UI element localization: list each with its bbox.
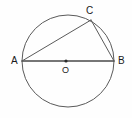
point-label-a: A xyxy=(11,56,18,66)
point-label-c: C xyxy=(86,6,93,16)
center-point-dot xyxy=(64,59,67,62)
point-label-b: B xyxy=(118,56,125,66)
circle-diagram-canvas xyxy=(0,0,132,118)
point-label-o: O xyxy=(62,66,69,75)
geometry-figure: A B C O xyxy=(0,0,132,118)
chord-segment-cb xyxy=(91,20,114,61)
chord-segment-ac xyxy=(22,20,91,61)
